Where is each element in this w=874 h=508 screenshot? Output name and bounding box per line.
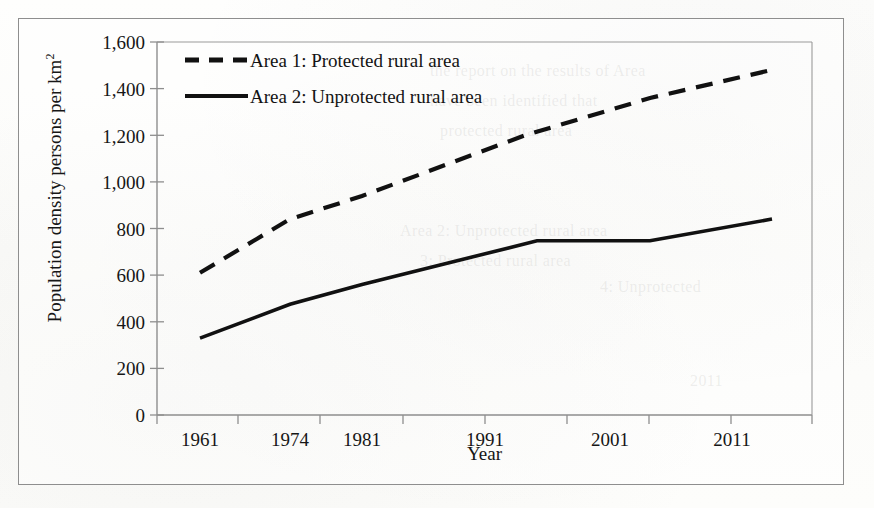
- y-axis-title: Population density persons per km2: [44, 38, 66, 338]
- y-tick-label: 200: [60, 359, 145, 378]
- y-tick-label: 800: [60, 220, 145, 239]
- figure-root: the report on the results of Area have b…: [0, 0, 874, 508]
- y-tick-label: 1,400: [60, 80, 145, 99]
- y-tick-label: 0: [60, 406, 145, 425]
- x-axis-ticks: [157, 415, 812, 424]
- y-tick-label: 600: [60, 266, 145, 285]
- legend-item-label-area-1: Area 1: Protected rural area: [250, 51, 460, 70]
- legend-item-label-area-2: Area 2: Unprotected rural area: [250, 87, 482, 106]
- series-line-area-2: [200, 219, 772, 338]
- y-tick-label: 1,200: [60, 127, 145, 146]
- y-tick-label: 1,000: [60, 173, 145, 192]
- y-axis-title-text: Population density persons per km: [44, 60, 65, 323]
- x-axis-title: Year: [157, 443, 812, 465]
- y-axis-title-superscript: 2: [43, 54, 57, 60]
- y-tick-label: 1,600: [60, 33, 145, 52]
- y-tick-label: 400: [60, 313, 145, 332]
